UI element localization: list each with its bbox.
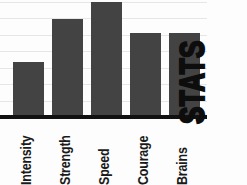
category-labels-group: IntensityStrengthSpeedCourageBrains — [0, 119, 207, 185]
category-label-brains: Brains — [174, 147, 191, 185]
bar-strength — [52, 19, 83, 117]
category-label-strength: Strength — [57, 135, 74, 185]
bar-courage — [130, 33, 161, 117]
category-label-courage: Courage — [135, 136, 152, 185]
category-label-speed: Speed — [96, 148, 113, 185]
category-label-intensity: Intensity — [18, 135, 35, 185]
bar-speed — [91, 2, 122, 117]
chart-title: STATS — [207, 0, 247, 130]
chart-title-text: STATS — [172, 40, 213, 124]
stats-bar-chart: IntensityStrengthSpeedCourageBrains STAT… — [0, 0, 247, 185]
bar-intensity — [13, 62, 44, 117]
